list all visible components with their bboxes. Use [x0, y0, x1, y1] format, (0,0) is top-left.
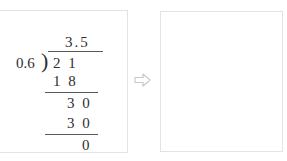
quotient-value: 3.5	[65, 35, 90, 50]
long-division-figure: 3.5 0.6 ) 2 1 1 8 3 0 3 0 0	[0, 11, 127, 152]
worked-example-panel: 3.5 0.6 ) 2 1 1 8 3 0 3 0 0	[0, 10, 128, 153]
division-vinculum	[48, 51, 103, 52]
division-step-subtract-2: 3 0	[67, 116, 92, 131]
right-arrow-icon	[134, 72, 151, 88]
division-step-rule-1	[45, 92, 98, 93]
worksheet-canvas: 3.5 0.6 ) 2 1 1 8 3 0 3 0 0	[0, 0, 287, 161]
division-step-subtract-1: 1 8	[53, 74, 78, 89]
answer-panel[interactable]	[160, 11, 283, 152]
division-step-bring-down: 3 0	[67, 96, 92, 111]
remainder-value: 0	[82, 138, 92, 153]
division-bracket-icon: )	[41, 50, 51, 72]
division-step-rule-2	[45, 134, 98, 135]
divisor-value: 0.6	[16, 56, 35, 71]
dividend-value: 2 1	[53, 56, 78, 71]
